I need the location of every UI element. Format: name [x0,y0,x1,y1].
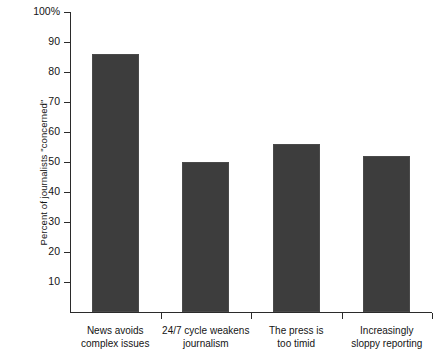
x-axis-category-label: The press istoo timid [251,325,342,350]
bar [182,162,229,312]
bar [363,156,410,312]
y-axis-tick-label: 70 [48,96,60,107]
y-axis-tick-label: 50 [48,156,60,167]
category-label-line: sloppy reporting [342,338,433,351]
category-label-line: complex issues [70,338,161,351]
x-axis-category-label: 24/7 cycle weakensjournalism [161,325,252,350]
category-label-line: too timid [251,338,342,351]
x-axis-category-label: News avoidscomplex issues [70,325,161,350]
x-axis-category-label: Increasinglysloppy reporting [342,325,433,350]
bar [92,54,139,312]
y-axis-tick-label: 30 [48,216,60,227]
y-axis-tick-label: 10 [48,276,60,287]
x-axis-tick [251,313,252,319]
x-axis-tick [161,313,162,319]
bar-chart: Percent of journalists "concerned" 10203… [0,0,436,364]
y-axis-tick-label: 40 [48,186,60,197]
y-axis-title: Percent of journalists "concerned" [38,43,49,303]
category-label-line: News avoids [87,325,144,336]
bar [273,144,320,312]
y-axis-tick-label: 80 [48,66,60,77]
y-axis-tick-label: 90 [48,36,60,47]
plot-area [70,12,432,312]
category-label-line: The press is [269,325,323,336]
x-axis-tick [342,313,343,319]
y-axis-tick-label: 100% [33,6,60,17]
y-axis-tick-label: 60 [48,126,60,137]
category-label-line: Increasingly [360,325,413,336]
category-label-line: 24/7 cycle weakens [162,325,249,336]
x-axis-tick [432,313,433,319]
category-label-line: journalism [161,338,252,351]
y-axis-tick-label: 20 [48,246,60,257]
